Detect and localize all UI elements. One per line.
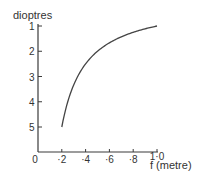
x-tick-label: 1·0 (150, 151, 165, 162)
y-tick-label: 1 (29, 21, 35, 32)
x-tick-label: ·6 (105, 154, 114, 165)
x-tick-label: 0 (32, 154, 38, 165)
y-tick-label: 2 (29, 46, 35, 57)
dioptre-focal-length-chart: dioptres f (metre) 12345 0·2·4·6·81·0 (0, 0, 202, 181)
power-curve (62, 26, 157, 127)
x-tick-label: ·8 (129, 154, 138, 165)
y-tick-label: 5 (29, 122, 35, 133)
y-axis-title: dioptres (13, 9, 53, 21)
y-tick-label: 3 (29, 72, 35, 83)
y-ticks: 12345 (29, 21, 42, 133)
y-tick-label: 4 (29, 97, 35, 108)
x-tick-label: ·4 (81, 154, 90, 165)
x-tick-label: ·2 (57, 154, 66, 165)
